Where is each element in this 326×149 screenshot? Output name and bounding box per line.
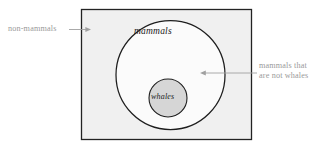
- mammals-not-whales-annotation: mammals that are not whales: [259, 61, 325, 80]
- non-mammals-annotation: non-mammals: [8, 24, 57, 34]
- mammals-label: mammals: [134, 26, 172, 37]
- set-diagram: mammals whales non-mammals mammals that …: [0, 0, 326, 149]
- mammals-not-whales-annotation-line1: mammals that: [259, 61, 325, 71]
- whales-label: whales: [151, 92, 174, 101]
- mammals-not-whales-annotation-line2: are not whales: [259, 71, 325, 81]
